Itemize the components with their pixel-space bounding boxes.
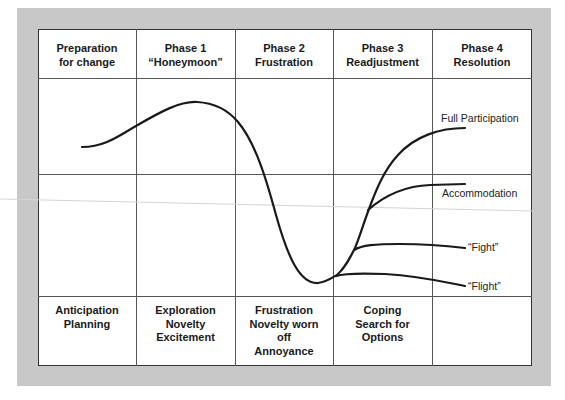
header-preparation: Preparation for change	[38, 41, 136, 71]
footer-line: Novelty	[136, 318, 235, 332]
header-line: Phase 1	[136, 41, 235, 55]
footer-line: Options	[333, 331, 432, 345]
footer-line: Annoyance	[235, 345, 333, 359]
label-fight: “Fight”	[468, 241, 498, 253]
header-line: Preparation	[38, 41, 136, 55]
header-phase-4: Phase 4 Resolution	[432, 41, 532, 71]
header-line: Frustration	[235, 55, 333, 69]
label-flight: “Flight”	[468, 280, 501, 292]
header-line: Resolution	[432, 55, 532, 69]
label-full-participation: Full Participation	[441, 112, 519, 124]
footer-line: off	[235, 331, 333, 345]
footer-line: Frustration	[235, 304, 333, 318]
column-divider-4	[432, 29, 433, 366]
header-line: Phase 2	[235, 41, 333, 55]
footer-line: Excitement	[136, 331, 235, 345]
footer-line: Search for	[333, 318, 432, 332]
header-phase-1: Phase 1 “Honeymoon”	[136, 41, 235, 71]
header-line: Readjustment	[333, 55, 432, 69]
footer-line: Novelty worn	[235, 318, 333, 332]
header-line: “Honeymoon”	[136, 55, 235, 69]
header-line: Phase 4	[432, 41, 532, 55]
header-phase-2: Phase 2 Frustration	[235, 41, 333, 71]
footer-line: Anticipation	[38, 304, 136, 318]
footer-line: Planning	[38, 318, 136, 332]
footer-line: Exploration	[136, 304, 235, 318]
header-line: Phase 3	[333, 41, 432, 55]
header-divider	[38, 78, 532, 79]
label-accommodation: Accommodation	[442, 187, 517, 199]
midline-divider	[38, 174, 532, 175]
footer-divider	[38, 296, 532, 297]
header-phase-3: Phase 3 Readjustment	[333, 41, 432, 71]
footer-preparation: Anticipation Planning	[38, 304, 136, 331]
footer-phase-2: Frustration Novelty worn off Annoyance	[235, 304, 333, 358]
footer-phase-1: Exploration Novelty Excitement	[136, 304, 235, 345]
footer-phase-3: Coping Search for Options	[333, 304, 432, 345]
header-line: for change	[38, 55, 136, 69]
footer-line: Coping	[333, 304, 432, 318]
